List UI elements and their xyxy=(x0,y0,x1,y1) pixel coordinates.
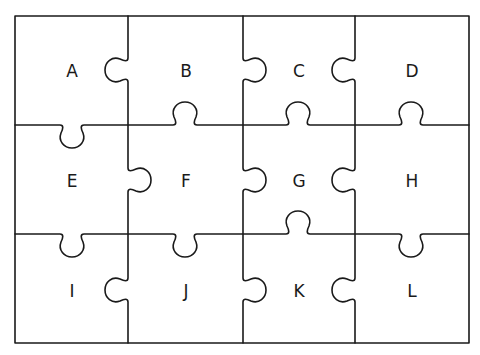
piece-label-d: D xyxy=(405,61,418,81)
seam-col2 xyxy=(243,16,266,343)
piece-label-a: A xyxy=(66,61,78,81)
piece-label-e: E xyxy=(67,171,78,191)
piece-label-j: J xyxy=(182,281,188,301)
piece-label-g: G xyxy=(292,171,305,191)
piece-label-k: K xyxy=(293,281,305,301)
piece-label-f: F xyxy=(181,171,191,191)
piece-label-l: L xyxy=(407,281,417,301)
piece-label-c: C xyxy=(293,61,305,81)
piece-label-h: H xyxy=(406,171,419,191)
seam-col3 xyxy=(332,16,355,343)
piece-label-i: I xyxy=(69,281,74,301)
seam-col1 xyxy=(105,16,151,343)
jigsaw-puzzle: A B C D E F G H I J K L xyxy=(0,0,480,355)
seam-row2 xyxy=(15,211,469,257)
seam-row1 xyxy=(15,102,469,148)
piece-label-b: B xyxy=(180,61,192,81)
puzzle-border xyxy=(15,16,469,343)
